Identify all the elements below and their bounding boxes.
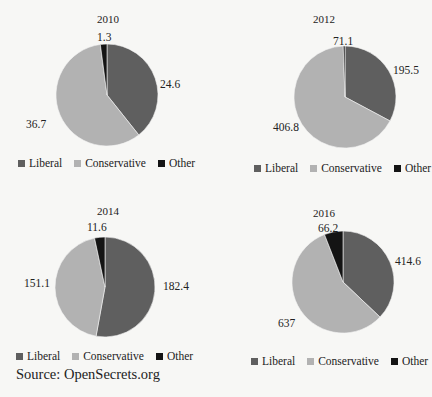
legend-swatch-liberal-icon (16, 353, 23, 360)
legend-item-liberal: Liberal (251, 355, 295, 367)
data-label-other: 66.2 (318, 222, 338, 234)
legend: LiberalConservativeOther (16, 350, 193, 362)
data-label-other: 1.3 (97, 31, 111, 43)
legend-label: Other (402, 355, 428, 367)
chart-title: 2010 (0, 13, 216, 25)
legend-item-liberal: Liberal (18, 157, 62, 169)
legend: LiberalConservativeOther (18, 157, 195, 169)
data-label-liberal: 414.6 (395, 255, 421, 267)
data-label-other: 71.1 (333, 35, 353, 47)
legend-item-conservative: Conservative (72, 350, 144, 362)
legend-label: Other (405, 162, 431, 174)
legend-swatch-conservative-icon (310, 165, 317, 172)
legend-swatch-liberal-icon (251, 358, 258, 365)
legend-swatch-conservative-icon (74, 160, 81, 167)
legend: LiberalConservativeOther (254, 162, 431, 174)
legend-swatch-conservative-icon (72, 353, 79, 360)
data-label-liberal: 24.6 (160, 78, 180, 90)
pie-chart (293, 45, 397, 149)
data-label-liberal: 195.5 (393, 64, 419, 76)
legend-label: Conservative (321, 162, 382, 174)
legend-item-conservative: Conservative (310, 162, 382, 174)
legend-swatch-other-icon (391, 358, 398, 365)
legend-swatch-conservative-icon (307, 358, 314, 365)
data-label-conservative: 637 (278, 317, 295, 329)
legend-label: Liberal (262, 355, 295, 367)
legend-label: Liberal (265, 162, 298, 174)
legend: LiberalConservativeOther (251, 355, 428, 367)
legend-label: Conservative (85, 157, 146, 169)
legend-label: Liberal (27, 350, 60, 362)
legend-item-other: Other (391, 355, 428, 367)
chart-title: 2012 (216, 13, 432, 25)
legend-item-liberal: Liberal (16, 350, 60, 362)
data-label-conservative: 151.1 (24, 277, 50, 289)
data-label-conservative: 36.7 (26, 118, 46, 130)
legend-swatch-other-icon (158, 160, 165, 167)
legend-swatch-other-icon (156, 353, 163, 360)
source-note: Source: OpenSecrets.org (16, 366, 160, 383)
legend-label: Other (169, 157, 195, 169)
legend-swatch-liberal-icon (18, 160, 25, 167)
legend-item-conservative: Conservative (307, 355, 379, 367)
chart-title: 2014 (0, 205, 216, 217)
data-label-conservative: 406.8 (273, 121, 299, 133)
pie-chart (291, 230, 395, 334)
legend-label: Conservative (318, 355, 379, 367)
data-label-other: 11.6 (87, 221, 107, 233)
legend-swatch-liberal-icon (254, 165, 261, 172)
chart-title: 2016 (216, 207, 432, 219)
data-label-liberal: 182.4 (163, 280, 189, 292)
legend-swatch-other-icon (394, 165, 401, 172)
legend-label: Liberal (29, 157, 62, 169)
legend-item-other: Other (158, 157, 195, 169)
legend-label: Other (167, 350, 193, 362)
legend-item-other: Other (156, 350, 193, 362)
legend-item-conservative: Conservative (74, 157, 146, 169)
pie-chart (55, 43, 159, 147)
legend-label: Conservative (83, 350, 144, 362)
pie-chart (54, 236, 156, 338)
legend-item-other: Other (394, 162, 431, 174)
legend-item-liberal: Liberal (254, 162, 298, 174)
